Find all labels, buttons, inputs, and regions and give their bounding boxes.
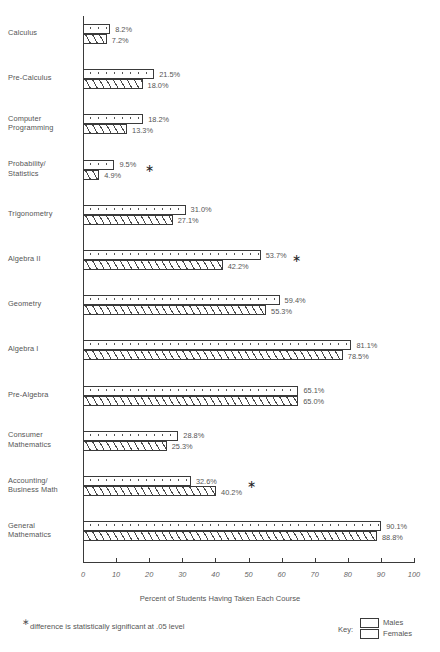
bar-males: [83, 431, 178, 441]
tick-mark: [149, 558, 150, 563]
category-label-line2: Statistics: [8, 169, 82, 179]
legend-swatch-females: [360, 629, 379, 639]
category-label: Algebra I: [8, 344, 82, 354]
bar-females: [83, 260, 223, 270]
bar-females: [83, 531, 377, 541]
tick-mark: [182, 558, 183, 563]
tick-label: 70: [303, 570, 327, 579]
significance-star-icon: ∗: [247, 479, 256, 489]
footnote-star-icon: ∗: [22, 617, 30, 627]
category-label-line1: Probability/: [8, 159, 82, 169]
bar-females: [83, 124, 127, 134]
bar-females: [83, 486, 216, 496]
category-label-line2: Business Math: [8, 485, 82, 495]
footnote: ∗difference is statistically significant…: [22, 622, 184, 631]
bar-value-females: 7.2%: [112, 36, 129, 46]
category-label-line1: Trigonometry: [8, 209, 82, 219]
category-label: Probability/Statistics: [8, 159, 82, 178]
category-label: Algebra II: [8, 254, 82, 264]
bar-value-males: 18.2%: [148, 115, 169, 125]
bar-females: [83, 441, 167, 451]
tick-mark: [348, 558, 349, 563]
category-label-line1: Accounting/: [8, 476, 82, 486]
tick-label: 0: [71, 570, 95, 579]
tick-label: 90: [369, 570, 393, 579]
bar-females: [83, 215, 173, 225]
bar-value-females: 78.5%: [348, 352, 369, 362]
category-label: Pre-Calculus: [8, 73, 82, 83]
bar-males: [83, 521, 381, 531]
tick-label: 10: [104, 570, 128, 579]
category-label-line2: Mathematics: [8, 440, 82, 450]
bar-value-females: 55.3%: [271, 307, 292, 317]
bar-value-males: 53.7%: [266, 251, 287, 261]
tick-mark: [315, 558, 316, 563]
bar-females: [83, 34, 107, 44]
category-label-line1: Algebra II: [8, 254, 82, 264]
bar-males: [83, 205, 186, 215]
bar-males: [83, 24, 110, 34]
category-label: Calculus: [8, 28, 82, 38]
category-label-line1: Computer: [8, 114, 82, 124]
tick-mark: [282, 558, 283, 563]
category-label-line1: Calculus: [8, 28, 82, 38]
category-label: Accounting/Business Math: [8, 476, 82, 495]
bar-value-females: 65.0%: [303, 397, 324, 407]
category-label: GeneralMathematics: [8, 521, 82, 540]
legend-label-females: Females: [383, 629, 412, 639]
category-label: ComputerProgramming: [8, 114, 82, 133]
bar-value-females: 25.3%: [172, 442, 193, 452]
bar-value-males: 32.6%: [196, 477, 217, 487]
tick-mark: [414, 558, 415, 563]
bar-value-females: 27.1%: [178, 216, 199, 226]
tick-mark: [215, 558, 216, 563]
bar-males: [83, 160, 114, 170]
bar-value-males: 90.1%: [386, 522, 407, 532]
bar-value-males: 8.2%: [115, 25, 132, 35]
bar-value-males: 21.5%: [159, 70, 180, 80]
category-label-line1: Geometry: [8, 299, 82, 309]
bar-value-females: 18.0%: [148, 81, 169, 91]
category-label-line1: Pre-Calculus: [8, 73, 82, 83]
bar-value-males: 28.8%: [183, 431, 204, 441]
bar-females: [83, 170, 99, 180]
bar-males: [83, 476, 191, 486]
bar-value-males: 81.1%: [356, 341, 377, 351]
legend-swatch-males: [360, 618, 379, 628]
bar-males: [83, 295, 280, 305]
bar-males: [83, 340, 351, 350]
bar-value-females: 88.8%: [382, 533, 403, 543]
category-label-line1: General: [8, 521, 82, 531]
category-label: Pre-Algebra: [8, 390, 82, 400]
tick-mark: [83, 558, 84, 563]
tick-label: 60: [270, 570, 294, 579]
bar-value-females: 4.9%: [104, 171, 121, 181]
bar-females: [83, 396, 298, 406]
tick-label: 80: [336, 570, 360, 579]
legend-title: Key:: [338, 625, 353, 634]
category-label: ConsumerMathematics: [8, 430, 82, 449]
category-label-line1: Algebra I: [8, 344, 82, 354]
footnote-text: difference is statistically significant …: [30, 622, 184, 631]
tick-label: 40: [203, 570, 227, 579]
bar-females: [83, 350, 343, 360]
tick-label: 20: [137, 570, 161, 579]
x-axis-title: Percent of Students Having Taken Each Co…: [0, 594, 440, 603]
bar-value-males: 59.4%: [285, 296, 306, 306]
bar-females: [83, 79, 143, 89]
category-label-line2: Mathematics: [8, 530, 82, 540]
tick-mark: [381, 558, 382, 563]
category-label-line1: Consumer: [8, 430, 82, 440]
significance-star-icon: ∗: [292, 253, 301, 263]
bar-males: [83, 386, 298, 396]
bar-males: [83, 69, 154, 79]
legend-label-males: Males: [383, 618, 403, 628]
bar-chart: CalculusPre-CalculusComputerProgrammingP…: [0, 0, 440, 652]
tick-mark: [116, 558, 117, 563]
category-label-line2: Programming: [8, 123, 82, 133]
bar-males: [83, 114, 143, 124]
bar-value-females: 13.3%: [132, 126, 153, 136]
category-label: Geometry: [8, 299, 82, 309]
significance-star-icon: ∗: [145, 163, 154, 173]
bar-males: [83, 250, 261, 260]
